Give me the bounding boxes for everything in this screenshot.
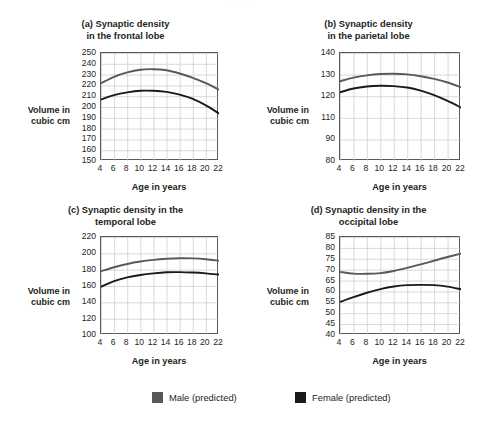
y-tick-label: 90 bbox=[325, 134, 335, 143]
y-tick-label: 60 bbox=[325, 286, 335, 295]
x-tick-label: 18 bbox=[428, 338, 438, 347]
y-tick-label: 250 bbox=[82, 48, 96, 57]
x-axis-ticks-c: 46810121416182022 bbox=[100, 338, 218, 348]
x-axis-caption-b: Age in years bbox=[339, 182, 460, 192]
chart-title-d-line2: occipital lobe bbox=[339, 217, 398, 227]
x-tick-label: 14 bbox=[161, 164, 171, 173]
x-tick-label: 20 bbox=[200, 338, 210, 347]
x-tick-label: 16 bbox=[415, 338, 425, 347]
x-tick-label: 10 bbox=[375, 164, 385, 173]
y-tick-label: 170 bbox=[82, 134, 96, 143]
y-tick-label: 210 bbox=[82, 91, 96, 100]
x-tick-label: 6 bbox=[111, 164, 116, 173]
x-tick-label: 4 bbox=[337, 164, 342, 173]
x-tick-label: 4 bbox=[98, 164, 103, 173]
y-axis-caption-c: Volume in cubic cm bbox=[8, 286, 70, 308]
legend-swatch-female-icon bbox=[295, 392, 306, 403]
y-tick-label: 75 bbox=[325, 253, 335, 262]
y-axis-caption-d: Volume in cubic cm bbox=[247, 286, 309, 308]
x-tick-label: 18 bbox=[187, 338, 197, 347]
x-tick-label: 4 bbox=[98, 338, 103, 347]
series-line-male bbox=[340, 254, 461, 274]
x-tick-label: 6 bbox=[111, 338, 116, 347]
series-line-male bbox=[101, 69, 219, 90]
chart-title-a-line1: (a) Synaptic density bbox=[82, 19, 170, 29]
y-tick-label: 70 bbox=[325, 264, 335, 273]
y-tick-label: 180 bbox=[82, 264, 96, 273]
y-axis-ticks-c: 220200180160140120100 bbox=[74, 236, 96, 334]
y-axis-ticks-b: 1401301201109080 bbox=[313, 52, 335, 160]
chart-title-a: (a) Synaptic density in the frontal lobe bbox=[16, 18, 235, 42]
y-tick-label: 160 bbox=[82, 281, 96, 290]
y-tick-label: 50 bbox=[325, 308, 335, 317]
y-tick-label: 200 bbox=[82, 102, 96, 111]
y-tick-label: 80 bbox=[325, 243, 335, 252]
legend-label-female: Female (predicted) bbox=[312, 392, 391, 403]
chart-panel-a: (a) Synaptic density in the frontal lobe… bbox=[0, 12, 243, 198]
y-tick-label: 140 bbox=[82, 297, 96, 306]
chart-title-a-line2: in the frontal lobe bbox=[87, 31, 165, 41]
x-tick-label: 18 bbox=[187, 164, 197, 173]
x-axis-ticks-b: 46810121416182022 bbox=[339, 164, 460, 174]
y-tick-label: 120 bbox=[82, 313, 96, 322]
chart-title-d-line1: (d) Synaptic density in the bbox=[311, 205, 427, 215]
x-axis-caption-a: Age in years bbox=[100, 182, 218, 192]
y-axis-caption-b: Volume in cubic cm bbox=[247, 105, 309, 127]
x-tick-label: 14 bbox=[161, 338, 171, 347]
x-tick-label: 8 bbox=[363, 164, 368, 173]
x-tick-label: 6 bbox=[350, 164, 355, 173]
x-tick-label: 22 bbox=[213, 338, 223, 347]
y-tick-label: 190 bbox=[82, 113, 96, 122]
y-axis-caption-a: Volume in cubic cm bbox=[8, 105, 70, 127]
x-tick-label: 22 bbox=[213, 164, 223, 173]
chart-svg-b bbox=[340, 53, 461, 161]
y-axis-caption-c-line2: cubic cm bbox=[31, 297, 70, 307]
chart-title-b: (b) Synaptic density in the parietal lob… bbox=[259, 18, 478, 42]
y-tick-label: 120 bbox=[321, 91, 335, 100]
y-tick-label: 160 bbox=[82, 145, 96, 154]
y-tick-label: 55 bbox=[325, 297, 335, 306]
y-axis-caption-c-line1: Volume in bbox=[28, 286, 70, 296]
x-tick-label: 20 bbox=[442, 164, 452, 173]
y-axis-caption-b-line2: cubic cm bbox=[270, 116, 309, 126]
x-tick-label: 8 bbox=[363, 338, 368, 347]
legend-item-male: Male (predicted) bbox=[152, 392, 237, 403]
legend-item-female: Female (predicted) bbox=[295, 392, 391, 403]
x-tick-label: 14 bbox=[401, 338, 411, 347]
series-line-female bbox=[101, 91, 219, 114]
legend-swatch-male-icon bbox=[152, 392, 163, 403]
x-tick-label: 16 bbox=[415, 164, 425, 173]
x-axis-caption-d: Age in years bbox=[339, 356, 460, 366]
y-tick-label: 130 bbox=[321, 69, 335, 78]
y-tick-label: 180 bbox=[82, 123, 96, 132]
page-top-artifact: · · bbox=[0, 0, 486, 12]
x-tick-label: 10 bbox=[375, 338, 385, 347]
x-tick-label: 8 bbox=[124, 164, 129, 173]
y-tick-label: 80 bbox=[325, 156, 335, 165]
chart-panel-grid: (a) Synaptic density in the frontal lobe… bbox=[0, 12, 486, 384]
y-axis-ticks-a: 250240230220210200190180170160150 bbox=[74, 52, 96, 160]
y-tick-label: 110 bbox=[321, 113, 335, 122]
y-axis-caption-a-line2: cubic cm bbox=[31, 116, 70, 126]
x-tick-label: 14 bbox=[401, 164, 411, 173]
x-tick-label: 10 bbox=[135, 164, 145, 173]
x-tick-label: 16 bbox=[174, 164, 184, 173]
x-tick-label: 4 bbox=[337, 338, 342, 347]
chart-svg-d bbox=[340, 237, 461, 335]
x-tick-label: 16 bbox=[174, 338, 184, 347]
y-tick-label: 220 bbox=[82, 232, 96, 241]
x-tick-label: 22 bbox=[455, 338, 465, 347]
figure-sheet: · · (a) Synaptic density in the frontal … bbox=[0, 0, 486, 424]
x-tick-label: 12 bbox=[148, 338, 158, 347]
x-tick-label: 20 bbox=[442, 338, 452, 347]
chart-svg-c bbox=[101, 237, 219, 335]
series-line-female bbox=[340, 285, 461, 302]
x-tick-label: 6 bbox=[350, 338, 355, 347]
y-axis-caption-b-line1: Volume in bbox=[267, 105, 309, 115]
x-tick-label: 20 bbox=[200, 164, 210, 173]
y-axis-caption-d-line2: cubic cm bbox=[270, 297, 309, 307]
y-tick-label: 200 bbox=[82, 248, 96, 257]
x-tick-label: 12 bbox=[388, 338, 398, 347]
x-axis-ticks-a: 46810121416182022 bbox=[100, 164, 218, 174]
chart-title-b-line2: in the parietal lobe bbox=[327, 31, 409, 41]
